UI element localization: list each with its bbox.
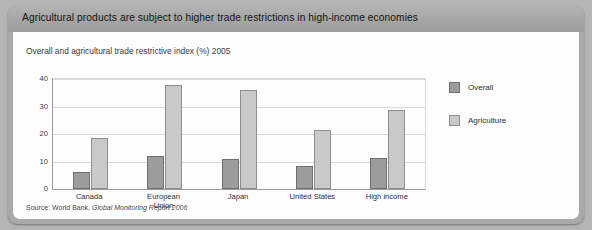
- y-axis-tick-label: 0: [20, 184, 48, 193]
- bar-agriculture-japan: [240, 90, 257, 189]
- bar-overall-canada: [73, 172, 90, 189]
- plot-area: [52, 78, 426, 190]
- bar-agriculture-canada: [91, 138, 108, 189]
- source-prefix: Source: World Bank,: [26, 204, 92, 211]
- x-axis-tick-label-line: High income: [350, 192, 424, 201]
- x-axis-tick-label-line: Union: [126, 201, 200, 210]
- legend-item-label: Overall: [468, 83, 493, 92]
- bar-overall-japan: [222, 159, 239, 189]
- legend-item-overall[interactable]: Overall: [449, 82, 569, 93]
- chart-panel: Overall and agricultural trade restricti…: [13, 32, 579, 219]
- chart-subtitle: Overall and agricultural trade restricti…: [26, 46, 230, 56]
- figure-title: Agricultural products are subject to hig…: [22, 12, 418, 23]
- x-axis-tick-label: Canada: [52, 192, 126, 201]
- y-axis-tick-label: 10: [20, 156, 48, 165]
- x-axis-tick-label-line: Japan: [201, 192, 275, 201]
- legend-item-agriculture[interactable]: Agriculture: [449, 115, 569, 126]
- bar-agriculture-high-income: [388, 110, 405, 189]
- x-axis-tick-label-line: Canada: [52, 192, 126, 201]
- square-swatch-icon: [449, 82, 460, 93]
- chart-legend: OverallAgriculture: [449, 82, 569, 148]
- bar-overall-high-income: [370, 158, 387, 189]
- bar-overall-united-states: [296, 166, 313, 189]
- x-axis-tick-label: EuropeanUnion: [126, 192, 200, 210]
- y-axis-tick-label: 20: [20, 129, 48, 138]
- bar-agriculture-united-states: [314, 130, 331, 189]
- figure-container: Agricultural products are subject to hig…: [8, 6, 584, 224]
- gridline: [53, 79, 425, 80]
- x-axis-tick-label: United States: [275, 192, 349, 201]
- figure-header-band: Agricultural products are subject to hig…: [8, 6, 584, 32]
- legend-item-label: Agriculture: [468, 116, 506, 125]
- x-axis-tick-label: High income: [350, 192, 424, 201]
- y-axis-tick-label: 40: [20, 74, 48, 83]
- bar-agriculture-european-union: [165, 85, 182, 190]
- y-axis-tick-label: 30: [20, 101, 48, 110]
- x-axis-tick-label-line: European: [126, 192, 200, 201]
- bar-overall-european-union: [147, 156, 164, 189]
- x-axis-tick-label-line: United States: [275, 192, 349, 201]
- x-axis-tick-label: Japan: [201, 192, 275, 201]
- square-swatch-icon: [449, 115, 460, 126]
- y-axis-tick-labels: 010203040: [18, 78, 48, 188]
